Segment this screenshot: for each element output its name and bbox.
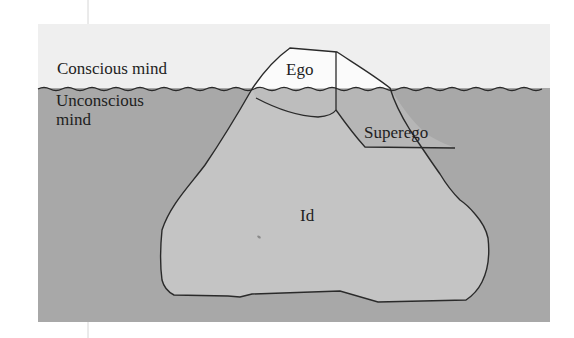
- ego-label: Ego: [286, 60, 313, 79]
- unconscious-mind-label: Unconscious mind: [56, 91, 176, 129]
- iceberg-illustration: [0, 0, 574, 338]
- conscious-mind-label: Conscious mind: [57, 59, 167, 78]
- id-label: Id: [300, 206, 314, 225]
- superego-label: Superego: [364, 123, 428, 142]
- iceberg-diagram: Conscious mind Unconscious mind Ego Supe…: [0, 0, 574, 338]
